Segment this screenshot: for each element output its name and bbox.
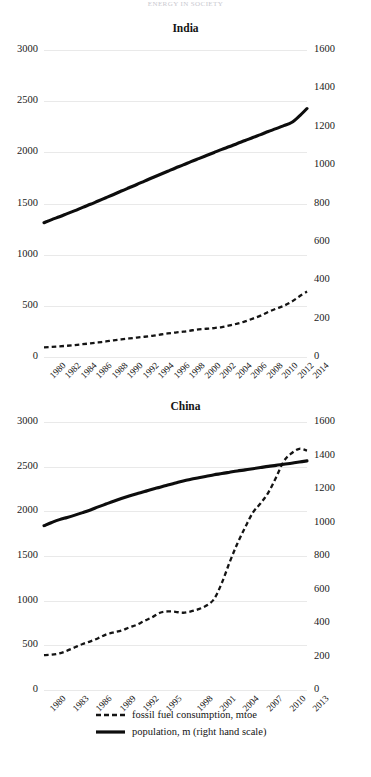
y-axis-tick-label-right-china: 200 — [314, 651, 330, 662]
y-axis-tick-label-right-china: 600 — [314, 584, 330, 595]
y-axis-tick-label-right-india: 1000 — [314, 159, 335, 170]
y-axis-tick-label-right-china: 1200 — [314, 483, 335, 494]
y-axis-tick-label-left-india: 1500 — [17, 198, 38, 209]
line-fossil-fuel-china — [44, 449, 307, 655]
y-axis-tick-label-left-india: 0 — [33, 351, 38, 362]
y-axis-tick-label-left-china: 2000 — [17, 505, 38, 516]
y-axis-tick-label-right-india: 800 — [314, 198, 330, 209]
y-axis-tick-label-left-china: 1000 — [17, 595, 38, 606]
chart-legend: fossil fuel consumption, mtoe population… — [0, 706, 371, 740]
line-population-india — [44, 109, 307, 223]
gridline — [44, 690, 307, 691]
legend-item-population: population, m (right hand scale) — [0, 723, 371, 740]
y-axis-tick-label-right-china: 0 — [314, 684, 319, 695]
y-axis-tick-label-right-india: 400 — [314, 274, 330, 285]
plot-area-india: 3000250020001500100050001600140012001000… — [44, 50, 307, 357]
y-axis-tick-label-right-china: 1000 — [314, 517, 335, 528]
y-axis-tick-label-left-china: 0 — [33, 684, 38, 695]
document-running-head: ENERGY IN SOCIETY — [0, 0, 371, 10]
legend-label-population: population, m (right hand scale) — [132, 726, 266, 737]
y-axis-tick-label-right-india: 200 — [314, 313, 330, 324]
y-axis-tick-label-right-india: 0 — [314, 351, 319, 362]
y-axis-tick-label-left-china: 2500 — [17, 461, 38, 472]
y-axis-tick-label-left-china: 1500 — [17, 550, 38, 561]
gridline — [44, 357, 307, 358]
y-axis-tick-label-left-india: 1000 — [17, 249, 38, 260]
y-axis-tick-label-right-india: 1400 — [314, 82, 335, 93]
series-layer-china — [44, 422, 307, 690]
y-axis-tick-label-left-india: 2000 — [17, 146, 38, 157]
line-fossil-fuel-india — [44, 292, 307, 348]
legend-item-fossil: fossil fuel consumption, mtoe — [0, 706, 371, 723]
y-axis-tick-label-left-india: 2500 — [17, 95, 38, 106]
x-axis-tick-label-india: 2014 — [311, 361, 331, 381]
y-axis-tick-label-left-india: 500 — [22, 300, 38, 311]
y-axis-tick-label-right-india: 1200 — [314, 121, 335, 132]
chart-panel-china: China 3000250020001500100050001600140012… — [0, 400, 371, 700]
chart-title-india: India — [0, 22, 371, 34]
y-axis-tick-label-right-india: 1600 — [314, 44, 335, 55]
plot-area-china: 3000250020001500100050001600140012001000… — [44, 422, 307, 690]
chart-page: ENERGY IN SOCIETY India 3000250020001500… — [0, 0, 371, 777]
series-layer-india — [44, 50, 307, 357]
y-axis-tick-label-left-india: 3000 — [17, 44, 38, 55]
y-axis-tick-label-left-china: 3000 — [17, 416, 38, 427]
y-axis-tick-label-right-china: 1400 — [314, 450, 335, 461]
legend-label-fossil: fossil fuel consumption, mtoe — [132, 709, 257, 720]
y-axis-tick-label-right-china: 1600 — [314, 416, 335, 427]
y-axis-tick-label-right-india: 600 — [314, 236, 330, 247]
y-axis-tick-label-right-china: 400 — [314, 617, 330, 628]
chart-panel-india: India 3000250020001500100050001600140012… — [0, 22, 371, 367]
y-axis-tick-label-right-china: 800 — [314, 550, 330, 561]
chart-title-china: China — [0, 400, 371, 412]
y-axis-tick-label-left-china: 500 — [22, 639, 38, 650]
